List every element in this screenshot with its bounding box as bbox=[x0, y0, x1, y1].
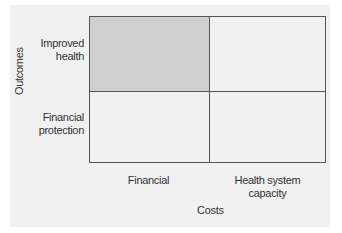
cell-improved-health-financial bbox=[90, 17, 209, 91]
row-label-line: Improved bbox=[14, 37, 84, 50]
column-label-line: Health system bbox=[208, 174, 327, 187]
row-label-line: protection bbox=[14, 124, 84, 137]
row-label-financial-protection: Financial protection bbox=[14, 111, 84, 137]
row-label-line: Financial bbox=[14, 111, 84, 124]
column-label-health-system-capacity: Health system capacity bbox=[208, 174, 327, 200]
row-label-line: health bbox=[14, 50, 84, 63]
horizontal-divider bbox=[90, 91, 325, 92]
x-axis-label: Costs bbox=[197, 204, 224, 217]
column-label-line: capacity bbox=[208, 187, 327, 200]
row-label-improved-health: Improved health bbox=[14, 37, 84, 63]
vertical-divider bbox=[209, 17, 210, 162]
column-label-financial: Financial bbox=[89, 174, 208, 187]
matrix-grid bbox=[89, 16, 326, 163]
column-label-line: Financial bbox=[89, 174, 208, 187]
